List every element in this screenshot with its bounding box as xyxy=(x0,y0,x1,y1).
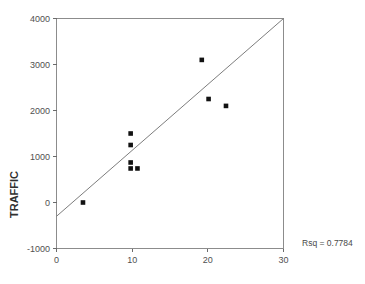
scatter-plot-figure: 4000 3000 2000 1000 0 -1000 0 10 20 30 T… xyxy=(0,0,365,284)
scatter-marker xyxy=(128,166,133,171)
scatter-marker xyxy=(199,58,204,63)
scatter-marker xyxy=(128,143,133,148)
rsq-annotation: Rsq = 0.7784 xyxy=(302,238,353,248)
scatter-marker xyxy=(128,160,133,165)
y-tick-label-neg1000: -1000 xyxy=(27,244,50,254)
x-tick-label-0: 0 xyxy=(54,255,59,265)
x-tick-label-20: 20 xyxy=(203,255,213,265)
scatter-marker xyxy=(206,97,211,102)
y-tick-label-0: 0 xyxy=(45,198,50,208)
scatter-marker xyxy=(81,200,86,205)
y-axis-title: TRAFFIC xyxy=(8,171,20,218)
y-tick-label-3000: 3000 xyxy=(30,60,50,70)
x-tick-label-10: 10 xyxy=(127,255,137,265)
scatter-marker xyxy=(128,131,133,136)
y-tick-label-2000: 2000 xyxy=(30,106,50,116)
chart-svg: 4000 3000 2000 1000 0 -1000 0 10 20 30 T… xyxy=(0,0,365,284)
scatter-marker xyxy=(224,104,229,109)
x-tick-label-30: 30 xyxy=(278,255,288,265)
scatter-marker xyxy=(135,166,140,171)
y-tick-label-4000: 4000 xyxy=(30,14,50,24)
y-tick-label-1000: 1000 xyxy=(30,152,50,162)
